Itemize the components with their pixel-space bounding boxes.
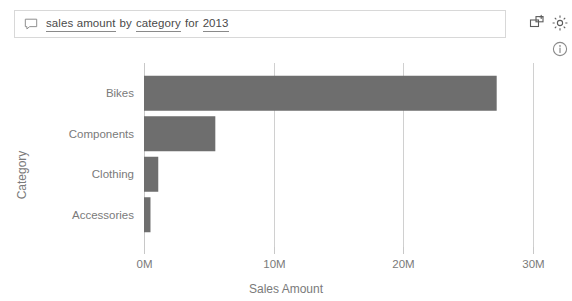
bar-bikes[interactable] bbox=[144, 76, 497, 111]
category-label-accessories: Accessories bbox=[72, 209, 134, 221]
x-axis-title: Sales Amount bbox=[249, 282, 324, 296]
bar-clothing[interactable] bbox=[144, 157, 158, 192]
category-label-components: Components bbox=[69, 128, 134, 140]
x-tick-label: 0M bbox=[137, 258, 153, 270]
qna-token-0[interactable]: sales amount bbox=[46, 16, 116, 32]
category-label-clothing: Clothing bbox=[92, 168, 134, 180]
x-tick-label: 10M bbox=[263, 258, 285, 270]
qna-query-bar[interactable]: sales amountbycategoryfor2013 bbox=[14, 10, 506, 38]
gear-icon[interactable] bbox=[551, 14, 569, 32]
qna-query-text[interactable]: sales amountbycategoryfor2013 bbox=[46, 16, 233, 32]
x-tick-label: 20M bbox=[392, 258, 414, 270]
pin-to-report-icon[interactable] bbox=[529, 14, 547, 32]
bar-accessories[interactable] bbox=[144, 197, 150, 232]
qna-token-3[interactable]: for bbox=[185, 16, 199, 30]
y-axis-title: Category bbox=[15, 151, 29, 200]
qna-token-1[interactable]: by bbox=[120, 16, 132, 30]
category-label-bikes: Bikes bbox=[106, 87, 134, 99]
qna-token-4[interactable]: 2013 bbox=[203, 16, 229, 32]
bar-components[interactable] bbox=[144, 116, 215, 151]
bar-chart[interactable]: 0M10M20M30M BikesComponentsClothingAcces… bbox=[0, 55, 572, 301]
y-category-labels: BikesComponentsClothingAccessories bbox=[69, 87, 134, 221]
qna-token-2[interactable]: category bbox=[136, 16, 181, 32]
x-tick-labels: 0M10M20M30M bbox=[137, 258, 545, 270]
chart-axis-lines bbox=[145, 247, 534, 254]
x-tick-label: 30M bbox=[522, 258, 544, 270]
chart-bars[interactable] bbox=[144, 76, 497, 233]
speech-bubble-icon bbox=[24, 17, 38, 31]
